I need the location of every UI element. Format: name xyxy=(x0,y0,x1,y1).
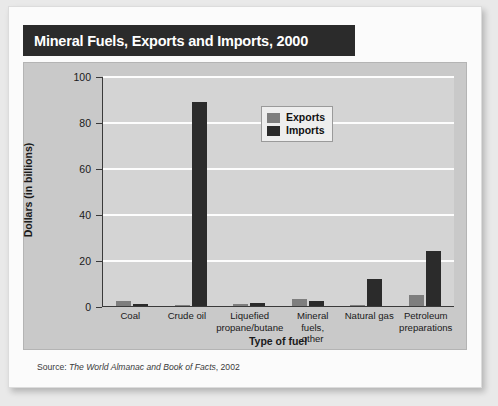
legend-item-imports: Imports xyxy=(267,124,325,137)
y-axis-tick-mark xyxy=(96,123,102,124)
chart-legend: Exports Imports xyxy=(261,106,333,142)
y-axis-tick-label: 60 xyxy=(79,163,96,174)
legend-label-imports: Imports xyxy=(286,125,325,136)
bar-exports xyxy=(409,295,424,306)
bar-imports xyxy=(426,251,441,306)
y-axis-tick-mark xyxy=(96,215,102,216)
y-axis-tick-mark xyxy=(96,261,102,262)
y-axis-tick-label: 100 xyxy=(73,71,96,82)
chart-title-bar: Mineral Fuels, Exports and Imports, 2000 xyxy=(23,25,355,56)
chart-card: Mineral Fuels, Exports and Imports, 2000… xyxy=(8,6,482,388)
bar-group xyxy=(103,77,162,306)
source-year: , 2002 xyxy=(216,362,240,372)
y-axis-tick-label: 40 xyxy=(79,209,96,220)
bar-exports xyxy=(233,304,248,306)
bar-group xyxy=(337,77,396,306)
bar-imports xyxy=(367,279,382,306)
source-prefix: Source: xyxy=(37,362,67,372)
y-axis-tick-mark xyxy=(96,169,102,170)
bar-imports xyxy=(192,102,207,306)
y-axis-tick-mark xyxy=(96,307,102,308)
bar-group xyxy=(162,77,221,306)
y-axis-tick-label: 0 xyxy=(85,301,96,312)
bar-imports xyxy=(309,301,324,306)
source-publication: The World Almanac and Book of Facts xyxy=(69,362,216,372)
y-axis-tick-label: 20 xyxy=(79,255,96,266)
bar-imports xyxy=(133,304,148,306)
chart-frame: Dollars (in billions) 020406080100 CoalC… xyxy=(23,62,467,350)
bar-exports xyxy=(350,305,365,306)
x-axis-title: Type of fuel xyxy=(102,335,454,347)
source-note: Source: The World Almanac and Book of Fa… xyxy=(37,362,240,372)
y-axis-tick-label: 80 xyxy=(79,117,96,128)
y-axis-tick-mark xyxy=(96,77,102,78)
bar-exports xyxy=(116,301,131,306)
bar-imports xyxy=(250,303,265,306)
legend-label-exports: Exports xyxy=(286,112,325,123)
legend-swatch-imports-icon xyxy=(267,126,280,136)
legend-swatch-exports-icon xyxy=(267,113,280,123)
page-title: Mineral Fuels, Exports and Imports, 2000 xyxy=(23,33,308,49)
bar-exports xyxy=(175,305,190,306)
legend-item-exports: Exports xyxy=(267,111,325,124)
bar-group xyxy=(396,77,455,306)
bar-exports xyxy=(292,299,307,306)
y-axis-title: Dollars (in billions) xyxy=(22,115,34,265)
